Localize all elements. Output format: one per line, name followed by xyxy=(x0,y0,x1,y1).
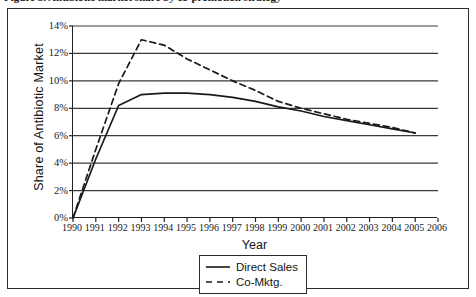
legend-label-direct-sales: Direct Sales xyxy=(236,261,298,273)
y-axis-tick-label: 8% xyxy=(34,103,68,113)
series-line-direct-sales xyxy=(73,93,415,218)
y-axis-tick-labels: 0%2%4%6%8%10%12%14% xyxy=(30,26,68,218)
y-axis-ticks xyxy=(69,26,73,218)
x-axis-tick-label: 2006 xyxy=(417,222,457,234)
y-axis-tick-label: 14% xyxy=(34,21,68,31)
x-axis-label: Year xyxy=(72,238,437,252)
chart-legend: Direct Sales Co-Mktg. xyxy=(199,255,307,294)
figure-root: Figure 3. Antibiotic market share by co-… xyxy=(0,0,476,297)
legend-item-co-mktg: Co-Mktg. xyxy=(205,274,298,289)
chart: Share of Antibiotic Market 0%2%4%6%8%10%… xyxy=(0,0,476,297)
gridlines xyxy=(73,26,438,191)
legend-label-co-mktg: Co-Mktg. xyxy=(236,276,283,288)
legend-swatch-solid xyxy=(205,262,231,272)
y-axis-tick-label: 12% xyxy=(34,48,68,58)
y-axis-tick-label: 6% xyxy=(34,131,68,141)
series-line-co-mktg xyxy=(73,40,415,218)
y-axis-tick-label: 4% xyxy=(34,158,68,168)
x-axis-tick-labels: 1990199119921993199419951996199719981999… xyxy=(72,222,437,236)
legend-item-direct-sales: Direct Sales xyxy=(205,259,298,274)
plot-svg xyxy=(73,26,438,218)
y-axis-tick-label: 2% xyxy=(34,186,68,196)
y-axis-tick-label: 10% xyxy=(34,76,68,86)
plot-area xyxy=(72,26,437,218)
legend-swatch-dashed xyxy=(205,277,231,287)
data-series-layer xyxy=(73,40,415,218)
